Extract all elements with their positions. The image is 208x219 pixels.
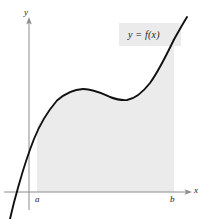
area-under-curve-figure: y x a b y = f(x) bbox=[0, 0, 208, 219]
y-axis-label: y bbox=[24, 8, 28, 17]
x-axis-label: x bbox=[194, 186, 198, 195]
figure-canvas bbox=[0, 0, 208, 219]
shaded-area-region bbox=[37, 40, 174, 193]
curve-equation-label: y = f(x) bbox=[128, 30, 160, 40]
upper-bound-label-b: b bbox=[170, 195, 175, 204]
lower-bound-label-a: a bbox=[35, 195, 40, 204]
